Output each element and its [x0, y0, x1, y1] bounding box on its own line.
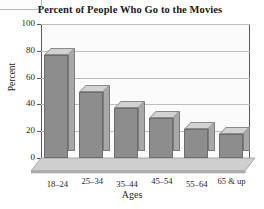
y-tick-label: 40 [5, 98, 35, 108]
bar [114, 108, 138, 158]
bar [219, 134, 243, 158]
y-tick-label: 20 [5, 125, 35, 135]
bar-front-face [184, 129, 208, 158]
x-tick-label: 65 & up [213, 176, 251, 186]
bar-side-face [138, 101, 145, 151]
bar-front-face [219, 134, 243, 158]
y-tick-label: 60 [5, 72, 35, 82]
y-tick-label: 100 [5, 18, 35, 28]
bar-chart-figure: Percent of People Who Go to the Movies P… [0, 0, 264, 209]
x-tick-label: 18–24 [38, 179, 76, 189]
chart-title: Percent of People Who Go to the Movies [0, 4, 260, 15]
bar [184, 129, 208, 158]
bar [149, 118, 173, 158]
bar-side-face [103, 85, 110, 151]
x-tick-label: 25–34 [73, 176, 111, 186]
bar-series [41, 24, 250, 158]
x-tick-label: 35–44 [108, 179, 146, 189]
bar [44, 55, 68, 158]
bar-side-face [68, 48, 75, 151]
x-axis-tick-labels: 18–2425–3435–4445–5455–6465 & up [30, 176, 260, 190]
bar-front-face [114, 108, 138, 158]
y-tick-label: 80 [5, 45, 35, 55]
bar [79, 92, 103, 158]
x-tick-label: 45–54 [143, 176, 181, 186]
x-tick-label: 55–64 [178, 179, 216, 189]
bar-front-face [44, 55, 68, 158]
bar-front-face [149, 118, 173, 158]
chart-floor-3d [31, 156, 255, 174]
bar-front-face [79, 92, 103, 158]
x-axis-title: Ages [0, 189, 264, 200]
